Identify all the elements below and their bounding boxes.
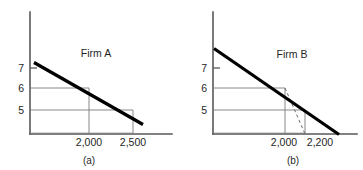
y-tick-label-5-b: 5: [201, 104, 207, 116]
chart-panel-a: 7 6 5 2,000 2,500 Firm A (a): [0, 0, 181, 170]
y-tick-label-5-a: 5: [18, 104, 24, 116]
series-label-firm-b: Firm B: [277, 48, 308, 60]
x-tick-label-2000-a: 2,000: [76, 136, 102, 148]
caption-b: (b): [287, 155, 299, 166]
demand-curve-b: [214, 49, 339, 135]
x-tick-label-2000-b: 2,000: [271, 136, 297, 148]
y-tick-label-7-a: 7: [18, 62, 24, 74]
dashed-curve-b: [285, 88, 306, 135]
series-label-firm-a: Firm A: [81, 47, 111, 59]
y-tick-label-7-b: 7: [201, 62, 207, 74]
chart-panel-b: 7 6 5 2,000 2,200 Firm B (b): [181, 0, 363, 170]
x-tick-label-2200-b: 2,200: [307, 136, 333, 148]
caption-a: (a): [83, 155, 95, 166]
y-tick-label-6-b: 6: [201, 82, 207, 94]
x-tick-label-2500-a: 2,500: [120, 136, 146, 148]
figure-container: 7 6 5 2,000 2,500 Firm A (a) 7 6 5: [0, 0, 363, 170]
y-tick-label-6-a: 6: [18, 82, 24, 94]
demand-curve-a: [34, 63, 143, 125]
